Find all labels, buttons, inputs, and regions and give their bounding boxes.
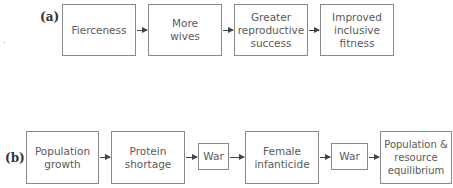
stray-mark bbox=[4, 42, 5, 43]
node-label: Protein shortage bbox=[125, 145, 172, 171]
node-label: Greater reproductive success bbox=[238, 11, 305, 50]
panel-a-label: (a) bbox=[40, 10, 59, 24]
arrow-icon bbox=[223, 30, 233, 31]
panel-b-label: (b) bbox=[5, 151, 25, 165]
arrow-icon bbox=[186, 157, 197, 158]
arrow-icon bbox=[137, 30, 147, 31]
arrow-icon bbox=[309, 30, 319, 31]
arrow-icon bbox=[320, 157, 330, 158]
node-war-2: War bbox=[331, 143, 368, 170]
node-label: Fierceness bbox=[71, 24, 126, 37]
node-female-infanticide: Female infanticide bbox=[245, 131, 319, 184]
node-label: Population & resource equilibrium bbox=[384, 138, 448, 177]
node-fierceness: Fierceness bbox=[62, 4, 136, 56]
node-improved-inclusive-fitness: Improved inclusive fitness bbox=[320, 4, 394, 56]
arrow-icon bbox=[230, 157, 244, 158]
node-more-wives: More wives bbox=[148, 4, 222, 56]
node-war-1: War bbox=[198, 143, 229, 170]
node-label: Female infanticide bbox=[254, 145, 309, 171]
node-protein-shortage: Protein shortage bbox=[111, 131, 185, 184]
node-population-resource-equilibrium: Population & resource equilibrium bbox=[380, 131, 452, 184]
node-label: Improved inclusive fitness bbox=[332, 11, 382, 50]
node-population-growth: Population growth bbox=[26, 131, 99, 184]
arrow-icon bbox=[100, 157, 110, 158]
node-label: War bbox=[203, 150, 223, 163]
node-label: Population growth bbox=[35, 145, 90, 171]
arrow-icon bbox=[369, 157, 379, 158]
node-greater-reproductive-success: Greater reproductive success bbox=[234, 4, 308, 56]
node-label: War bbox=[339, 150, 359, 163]
node-label: More wives bbox=[170, 17, 200, 43]
